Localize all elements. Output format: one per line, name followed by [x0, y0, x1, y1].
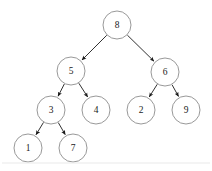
- binary-tree-diagram: 856342917: [0, 0, 212, 171]
- tree-edge-3-to-1: [36, 122, 43, 134]
- nodes-layer: 856342917: [14, 11, 200, 162]
- node-label-5: 5: [69, 66, 74, 76]
- tree-node-9[interactable]: 9: [172, 96, 200, 124]
- tree-node-4[interactable]: 4: [82, 96, 110, 124]
- node-label-8: 8: [115, 20, 120, 30]
- tree-edge-6-to-2: [149, 84, 157, 97]
- tree-edge-8-to-6: [127, 35, 154, 61]
- node-label-4: 4: [94, 105, 99, 115]
- tree-node-3[interactable]: 3: [37, 96, 65, 124]
- tree-edge-6-to-9: [172, 85, 178, 97]
- node-label-1: 1: [26, 143, 31, 153]
- node-label-9: 9: [184, 105, 189, 115]
- node-label-2: 2: [139, 105, 144, 115]
- tree-node-8[interactable]: 8: [103, 11, 131, 39]
- tree-node-2[interactable]: 2: [127, 96, 155, 124]
- tree-edge-5-to-4: [79, 83, 88, 97]
- tree-svg-canvas: 856342917: [0, 0, 212, 171]
- tree-node-7[interactable]: 7: [59, 134, 87, 162]
- tree-node-1[interactable]: 1: [14, 134, 42, 162]
- tree-node-5[interactable]: 5: [57, 57, 85, 85]
- tree-edge-8-to-5: [82, 35, 107, 60]
- tree-node-6[interactable]: 6: [151, 58, 179, 86]
- tree-edge-3-to-7: [58, 123, 65, 135]
- node-label-7: 7: [71, 143, 76, 153]
- node-label-6: 6: [163, 67, 168, 77]
- node-label-3: 3: [49, 105, 54, 115]
- tree-edge-5-to-3: [58, 84, 64, 96]
